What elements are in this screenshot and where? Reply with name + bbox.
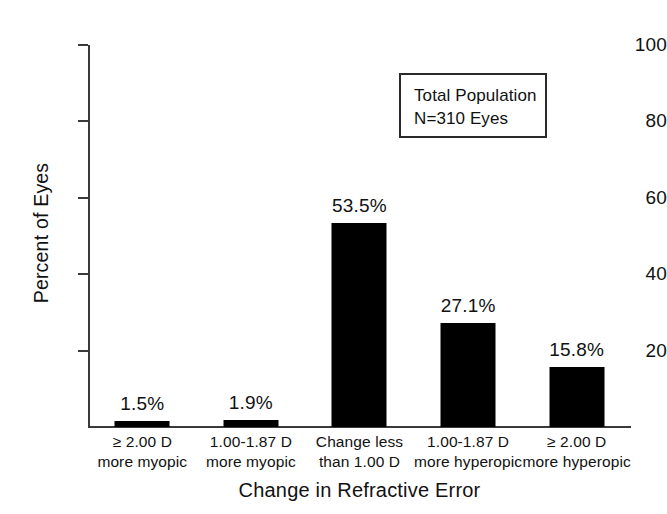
bar[interactable]: [332, 223, 387, 427]
x-axis-category-label: 1.00-1.87 Dmore hyperopic: [408, 432, 528, 472]
category-label-line: ≥ 2.00 D: [82, 432, 202, 452]
category-label-line: 1.00-1.87 D: [408, 432, 528, 452]
x-axis-category-label: ≥ 2.00 Dmore hyperopic: [517, 432, 637, 472]
bar-chart-figure: 20406080100 Percent of Eyes Change in Re…: [0, 0, 667, 514]
bar-slot: 53.5%: [305, 45, 414, 427]
bar[interactable]: [115, 421, 170, 427]
bar-value-label: 1.9%: [229, 393, 273, 412]
category-label-line: ≥ 2.00 D: [517, 432, 637, 452]
x-axis-category-labels: ≥ 2.00 Dmore myopic1.00-1.87 Dmore myopi…: [88, 432, 631, 476]
category-label-line: Change less: [300, 432, 420, 452]
bar[interactable]: [549, 367, 604, 427]
bar[interactable]: [441, 323, 496, 427]
x-axis-title: Change in Refractive Error: [88, 478, 631, 502]
x-axis-category-label: ≥ 2.00 Dmore myopic: [82, 432, 202, 472]
category-label-line: than 1.00 D: [300, 452, 420, 472]
plot-area: 1.5%1.9%53.5%27.1%15.8%: [88, 45, 631, 427]
category-label-line: 1.00-1.87 D: [191, 432, 311, 452]
y-axis-tick-mark: [78, 197, 88, 199]
bar-value-label: 53.5%: [332, 196, 387, 215]
category-label-line: more hyperopic: [517, 452, 637, 472]
y-axis-tick-mark: [78, 273, 88, 275]
annotation-line-1: Total Population: [414, 84, 545, 107]
x-axis-category-label: 1.00-1.87 Dmore myopic: [191, 432, 311, 472]
annotation-line-2: N=310 Eyes: [414, 107, 545, 130]
y-axis-title: Percent of Eyes: [30, 113, 52, 353]
bar-value-label: 27.1%: [441, 296, 496, 315]
x-axis-category-label: Change lessthan 1.00 D: [300, 432, 420, 472]
category-label-line: more hyperopic: [408, 452, 528, 472]
bar[interactable]: [223, 420, 278, 427]
category-label-line: more myopic: [82, 452, 202, 472]
y-axis-tick-mark: [78, 350, 88, 352]
category-label-line: more myopic: [191, 452, 311, 472]
bar-slot: 1.5%: [88, 45, 197, 427]
y-axis-tick-mark: [78, 44, 88, 46]
bar-value-label: 15.8%: [549, 340, 604, 359]
bar-slot: 1.9%: [197, 45, 306, 427]
y-axis-tick-mark: [78, 120, 88, 122]
annotation-box: Total Population N=310 Eyes: [399, 73, 547, 138]
bar-value-label: 1.5%: [120, 394, 164, 413]
